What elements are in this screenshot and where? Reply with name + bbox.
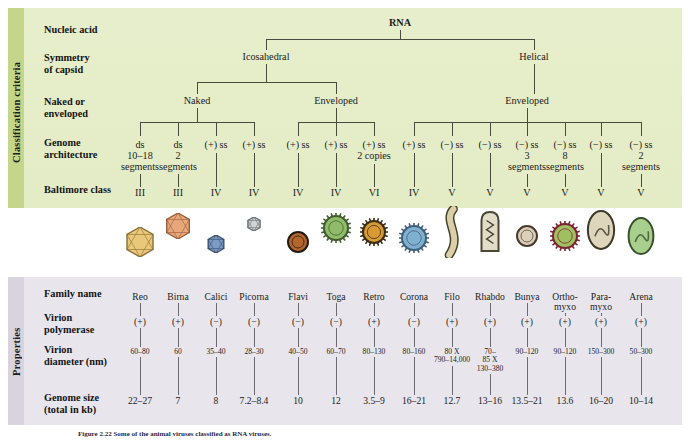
tree-line-helical-stem [534, 64, 535, 94]
paramyxo-virion [586, 209, 616, 255]
genome-architecture-1: ds 2 segments [159, 140, 197, 172]
family-name-9: Rhabdo [475, 292, 505, 302]
genome-architecture-3: (+) ss [242, 140, 265, 151]
tick-poly-diam-6 [374, 328, 375, 347]
tree-node-icosahedral: Icosahedral [243, 52, 290, 63]
tick-poly-diam-8 [452, 328, 453, 347]
branch-drop-7 [414, 122, 415, 136]
virion-diameter-3: 28–30 [245, 348, 264, 356]
arena-virion [627, 216, 656, 260]
virion-diameter-13: 50–300 [630, 348, 653, 356]
tree-line-env-ico-stem [336, 108, 337, 122]
tick-family-poly-9 [490, 303, 491, 316]
tick-poly-diam-1 [178, 328, 179, 347]
bunya-virion [514, 223, 540, 253]
genome-size-11: 13.6 [557, 396, 574, 406]
tick-poly-diam-5 [336, 328, 337, 347]
tick-diam-genome-7 [414, 357, 415, 395]
genome-drop-1 [178, 174, 179, 187]
tick-poly-diam-11 [565, 328, 566, 347]
tree-line-to-helical [534, 39, 535, 50]
filo-virion [438, 206, 467, 262]
genome-architecture-10: (−) ss 3 segments [508, 140, 546, 172]
tick-family-poly-11 [565, 313, 566, 316]
tick-poly-diam-7 [414, 328, 415, 347]
baltimore-class-1: III [173, 188, 183, 199]
genome-drop-13 [641, 174, 642, 187]
genome-architecture-5: (+) ss [324, 140, 347, 151]
branch-drop-2 [216, 122, 217, 136]
family-name-8: Filo [444, 292, 459, 302]
baltimore-class-9: V [486, 188, 493, 199]
genome-drop-12 [601, 153, 602, 187]
baltimore-class-11: V [561, 188, 568, 199]
tree-node-rna: RNA [389, 18, 411, 29]
row-label-genome-size: Genome size (total in kb) [44, 392, 99, 415]
family-name-5: Toga [326, 292, 345, 302]
virion-diameter-10: 90–120 [516, 348, 539, 356]
figure-caption: Figure 2.22 Some of the animal viruses c… [78, 430, 618, 442]
tick-family-poly-7 [414, 303, 415, 316]
virion-polymerase-12: (+) [595, 317, 607, 327]
family-name-13: Arena [629, 292, 652, 302]
tick-diam-genome-3 [254, 357, 255, 395]
genome-architecture-11: (−) ss 8 segments [546, 140, 584, 172]
branch-drop-11 [565, 122, 566, 136]
row-label-family-name: Family name [44, 288, 101, 300]
tick-poly-diam-3 [254, 328, 255, 347]
tick-diam-genome-10 [527, 357, 528, 395]
baltimore-class-3: IV [249, 188, 260, 199]
tick-family-poly-10 [527, 303, 528, 316]
family-name-2: Calici [205, 292, 228, 302]
tick-poly-diam-9 [490, 328, 491, 347]
virion-polymerase-7: (−) [408, 317, 420, 327]
tick-diam-genome-4 [298, 357, 299, 395]
genome-architecture-12: (−) ss [589, 140, 612, 151]
virion-diameter-11: 90–120 [554, 348, 577, 356]
row-label-symmetry-of-capsid: Symmetry of capsid [44, 52, 90, 75]
tick-diam-genome-1 [178, 357, 179, 395]
genome-size-5: 12 [331, 396, 341, 406]
family-name-10: Bunya [514, 292, 539, 302]
genome-size-12: 16–20 [589, 396, 613, 406]
virion-diameter-8: 80 X 790–14,000 [434, 348, 470, 365]
genome-drop-5 [336, 153, 337, 187]
virion-polymerase-3: (−) [248, 317, 260, 327]
branch-drop-10 [527, 122, 528, 136]
tick-poly-diam-10 [527, 328, 528, 347]
genome-size-9: 13–16 [478, 396, 502, 406]
tick-diam-genome-2 [216, 357, 217, 395]
genome-size-6: 3.5–9 [363, 396, 385, 406]
family-name-11: Ortho- myxo [552, 292, 578, 312]
branch-drop-4 [298, 122, 299, 136]
branch-drop-1 [178, 122, 179, 136]
genome-architecture-9: (−) ss [478, 140, 501, 151]
genome-architecture-4: (+) ss [286, 140, 309, 151]
tree-node-helical: Helical [519, 52, 548, 63]
tick-poly-diam-2 [216, 328, 217, 347]
genome-architecture-8: (−) ss [440, 140, 463, 151]
properties-spine: Properties [8, 277, 24, 425]
genome-drop-11 [565, 174, 566, 187]
virion-diameter-4: 40–50 [289, 348, 308, 356]
genome-size-0: 22–27 [128, 396, 152, 406]
virion-diameter-2: 35–40 [207, 348, 226, 356]
virion-diameter-7: 80–160 [403, 348, 426, 356]
branch-drop-13 [641, 122, 642, 136]
family-name-12: Para- myxo [590, 292, 612, 312]
tick-poly-diam-0 [140, 328, 141, 347]
genome-drop-9 [490, 153, 491, 187]
virion-polymerase-1: (+) [172, 317, 184, 327]
branch-drop-0 [140, 122, 141, 136]
flavi-virion [285, 229, 311, 259]
tick-family-poly-4 [298, 303, 299, 316]
baltimore-class-6: VI [369, 188, 380, 199]
virion-polymerase-6: (+) [368, 317, 380, 327]
virion-diameter-5: 60–70 [327, 348, 346, 356]
orthomyxo-virion [550, 221, 580, 255]
genome-architecture-13: (−) ss 2 segments [622, 140, 660, 172]
virion-diameter-9: 70– 85 X 130–380 [477, 348, 504, 373]
tick-poly-diam-13 [641, 328, 642, 347]
tick-family-poly-1 [178, 303, 179, 316]
baltimore-class-4: IV [293, 188, 304, 199]
